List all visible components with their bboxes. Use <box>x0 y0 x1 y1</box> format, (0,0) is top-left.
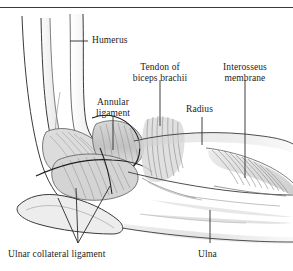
label-humerus: Humerus <box>92 35 128 46</box>
label-interosseus-line1: Interosseus <box>212 62 278 73</box>
elbow-anatomy-illustration <box>0 0 293 271</box>
label-tendon-biceps-line2: biceps brachii <box>128 73 192 84</box>
biceps-tendon <box>142 116 203 200</box>
label-tendon-biceps: Tendon of biceps brachii <box>128 62 192 83</box>
interosseus-membrane <box>206 148 293 196</box>
ulna-shaft <box>122 214 293 244</box>
olecranon <box>17 194 123 234</box>
label-ulnar-collateral: Ulnar collateral ligament <box>8 249 105 260</box>
label-radius: Radius <box>186 104 213 115</box>
label-interosseus-line2: membrane <box>212 73 278 84</box>
label-interosseus: Interosseus membrane <box>212 62 278 83</box>
label-annular-line1: Annular <box>83 97 143 108</box>
label-ulna: Ulna <box>198 249 217 260</box>
label-tendon-biceps-line1: Tendon of <box>128 62 192 73</box>
label-annular: Annular ligament <box>83 97 143 118</box>
label-annular-line2: ligament <box>83 108 143 119</box>
figure-panel: Humerus Tendon of biceps brachii Interos… <box>0 0 293 271</box>
